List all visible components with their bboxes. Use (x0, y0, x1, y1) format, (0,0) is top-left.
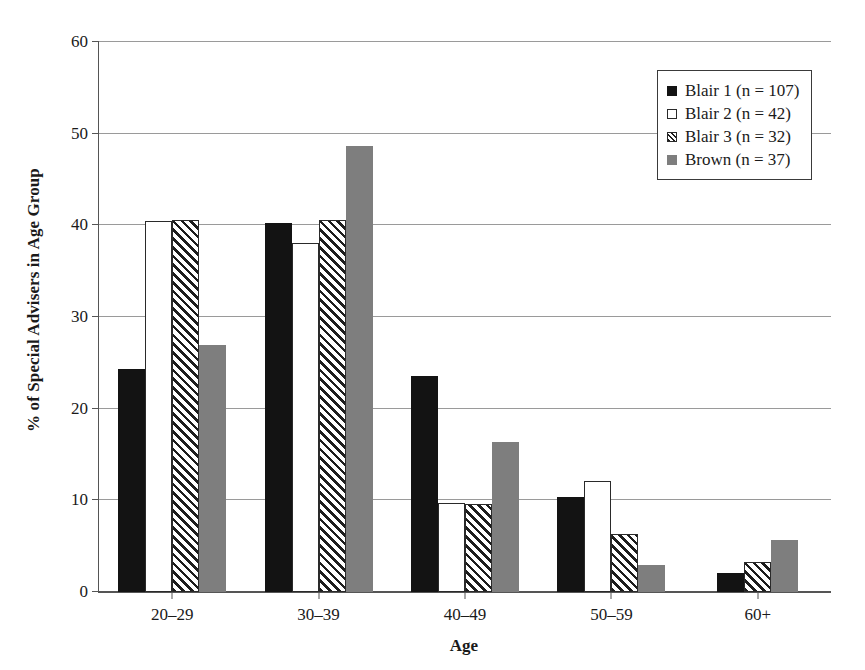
y-tick-label: 30 (71, 307, 88, 327)
bar (611, 534, 638, 592)
bar (346, 146, 373, 592)
legend-swatch-icon (667, 86, 677, 96)
bar (771, 540, 798, 592)
y-tick-label: 20 (71, 399, 88, 419)
legend-label: Blair 1 (n = 107) (685, 81, 799, 101)
bar-group: 30–39 (245, 42, 391, 592)
bar (638, 565, 665, 592)
bar-chart: % of Special Advisers in Age Group 01020… (0, 0, 865, 670)
legend-label: Brown (n = 37) (685, 150, 790, 170)
legend-item: Blair 1 (n = 107) (667, 79, 799, 102)
legend-swatch-icon (667, 132, 677, 142)
bar (557, 497, 584, 592)
legend-item: Brown (n = 37) (667, 148, 799, 171)
bar (118, 369, 145, 592)
x-tick-mark (465, 592, 466, 599)
y-tick-mark (92, 408, 99, 409)
x-tick-label: 50–59 (590, 605, 633, 625)
x-tick-label: 40–49 (444, 605, 487, 625)
x-tick-label: 30–39 (297, 605, 340, 625)
x-axis-title: Age (98, 636, 830, 656)
y-tick-mark (92, 316, 99, 317)
bar-group: 40–49 (392, 42, 538, 592)
bar (465, 504, 492, 592)
legend-item: Blair 2 (n = 42) (667, 102, 799, 125)
y-tick-label: 50 (71, 124, 88, 144)
legend-item: Blair 3 (n = 32) (667, 125, 799, 148)
x-tick-mark (172, 592, 173, 599)
y-tick-label: 60 (71, 32, 88, 52)
x-tick-mark (611, 592, 612, 599)
x-tick-label: 60+ (745, 605, 772, 625)
bar (438, 503, 465, 592)
y-tick-mark (92, 133, 99, 134)
legend-swatch-icon (667, 109, 677, 119)
legend-swatch-icon (667, 155, 677, 165)
x-tick-mark (757, 592, 758, 599)
x-tick-mark (318, 592, 319, 599)
bar (411, 376, 438, 592)
y-tick-mark (92, 224, 99, 225)
bar (717, 573, 744, 592)
bar-group: 20–29 (99, 42, 245, 592)
y-tick-label: 0 (80, 582, 89, 602)
bar (319, 220, 346, 592)
y-tick-label: 10 (71, 490, 88, 510)
y-tick-mark (92, 591, 99, 592)
bar (492, 442, 519, 592)
bar (265, 223, 292, 592)
bar (584, 481, 611, 592)
bar (744, 562, 771, 592)
y-tick-mark (92, 41, 99, 42)
bar (145, 221, 172, 592)
legend-label: Blair 3 (n = 32) (685, 127, 791, 147)
x-tick-label: 20–29 (151, 605, 194, 625)
y-axis-title: % of Special Advisers in Age Group (17, 0, 51, 600)
legend: Blair 1 (n = 107)Blair 2 (n = 42)Blair 3… (657, 70, 812, 180)
bar (199, 345, 226, 593)
y-tick-mark (92, 499, 99, 500)
legend-label: Blair 2 (n = 42) (685, 104, 791, 124)
bar (292, 243, 319, 592)
bar (172, 220, 199, 592)
y-tick-label: 40 (71, 215, 88, 235)
